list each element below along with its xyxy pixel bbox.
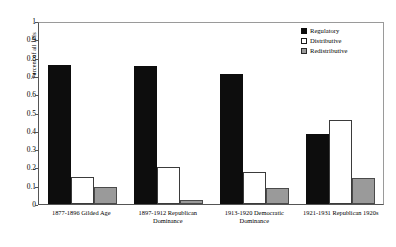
- bar-regulatory: [134, 66, 157, 204]
- legend: RegulatoryDistributiveRedistributive: [301, 26, 347, 56]
- bar-redistributive: [180, 200, 203, 204]
- legend-swatch-icon: [301, 48, 307, 54]
- legend-item: Redistributive: [301, 46, 347, 55]
- y-axis: 00.10.20.30.40.50.60.70.80.91: [0, 0, 38, 247]
- y-tick-mark: [35, 205, 38, 206]
- legend-item: Distributive: [301, 36, 347, 45]
- x-axis-label: 1913-1920 Democratic Dominance: [211, 209, 298, 225]
- x-axis-labels: 1877-1896 Gilded Age1897-1912 Republican…: [38, 209, 384, 225]
- y-tick-label: 0: [0, 201, 36, 208]
- bar-redistributive: [352, 178, 375, 204]
- legend-swatch-icon: [301, 38, 307, 44]
- legend-swatch-icon: [301, 28, 307, 34]
- y-tick-label: 0.6: [0, 91, 36, 98]
- y-tick-label: 0.9: [0, 36, 36, 43]
- x-axis-label: 1921-1931 Republican 1920s: [298, 209, 385, 225]
- y-tick-label: 1: [0, 18, 36, 25]
- bar-regulatory: [306, 134, 329, 204]
- y-tick-label: 0.3: [0, 146, 36, 153]
- x-axis-label: 1897-1912 Republican Dominance: [125, 209, 212, 225]
- y-tick-label: 0.7: [0, 73, 36, 80]
- bar-group: [39, 23, 125, 204]
- bar-redistributive: [266, 188, 289, 204]
- bar-regulatory: [220, 74, 243, 204]
- y-tick-label: 0.4: [0, 128, 36, 135]
- y-tick-label: 0.5: [0, 110, 36, 117]
- bar-group: [125, 23, 211, 204]
- bar-regulatory: [48, 65, 71, 204]
- bar-distributive: [329, 120, 352, 204]
- bar-distributive: [71, 177, 94, 204]
- x-axis-label: 1877-1896 Gilded Age: [38, 209, 125, 225]
- bar-distributive: [243, 172, 266, 204]
- legend-label: Redistributive: [310, 47, 347, 54]
- y-tick-label: 0.8: [0, 55, 36, 62]
- y-tick-label: 0.2: [0, 164, 36, 171]
- y-tick-label: 0.1: [0, 183, 36, 190]
- bar-chart: Percent of all IPIs 00.10.20.30.40.50.60…: [0, 0, 396, 247]
- legend-item: Regulatory: [301, 26, 347, 35]
- bar-redistributive: [94, 187, 117, 204]
- bar-distributive: [157, 167, 180, 204]
- legend-label: Regulatory: [310, 27, 339, 34]
- bar-group: [211, 23, 297, 204]
- legend-label: Distributive: [310, 37, 342, 44]
